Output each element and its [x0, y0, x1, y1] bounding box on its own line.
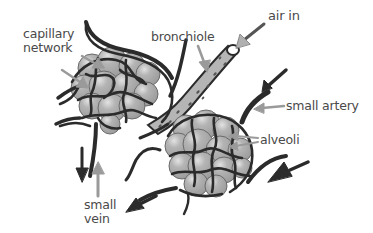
label-small-vein-line1: small — [84, 198, 116, 212]
label-small-artery: small artery — [286, 99, 359, 113]
alveoli-diagram: capillary network bronchiole air in smal… — [0, 0, 373, 233]
label-air-in: air in — [268, 9, 300, 23]
pointer-air-in — [236, 24, 264, 48]
label-capillary-network-line1: capillary — [23, 27, 74, 41]
label-capillary-network-line2: network — [23, 41, 74, 55]
flow-arrow-lower-right — [268, 162, 308, 182]
pointer-small-artery — [254, 103, 284, 113]
label-bronchiole: bronchiole — [151, 30, 214, 44]
flow-arrow-artery-in — [262, 70, 286, 92]
label-small-vein: small vein — [84, 198, 116, 226]
pointer-bronchiole — [198, 46, 210, 72]
label-capillary-network: capillary network — [23, 27, 74, 55]
label-small-vein-line2: vein — [84, 212, 116, 226]
flow-arrow-vein-down — [76, 148, 88, 182]
label-alveoli: alveoli — [260, 133, 299, 147]
pointer-small-vein — [92, 162, 104, 196]
